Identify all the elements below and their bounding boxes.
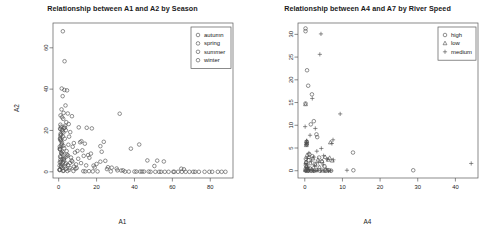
legend-label-summer: summer xyxy=(204,49,225,55)
point-triangle xyxy=(318,165,322,169)
point-circle xyxy=(82,154,86,158)
x-tick-label-1: 10 xyxy=(339,184,345,190)
y-tick-label-0: 0 xyxy=(288,169,294,172)
point-circle xyxy=(176,170,180,174)
point-circle xyxy=(220,170,224,174)
point-circle xyxy=(65,89,69,93)
y-tick-label-2: 10 xyxy=(288,122,294,128)
legend: highlowmedium xyxy=(438,27,476,60)
point-circle xyxy=(81,149,85,153)
point-circle xyxy=(74,163,78,167)
point-circle xyxy=(102,140,106,144)
point-circle xyxy=(127,170,131,174)
point-circle xyxy=(83,142,87,146)
point-circle xyxy=(64,120,68,124)
y-tick-label-3: 60 xyxy=(43,45,49,51)
point-circle xyxy=(63,59,67,63)
x-tick-label-1: 20 xyxy=(93,184,99,190)
point-circle xyxy=(77,126,81,130)
point-circle xyxy=(85,126,89,130)
point-circle xyxy=(306,84,310,88)
y-tick-label-3: 15 xyxy=(288,99,294,105)
point-circle xyxy=(118,112,122,116)
point-plus xyxy=(345,168,349,172)
point-circle xyxy=(129,147,133,151)
point-plus xyxy=(313,126,317,130)
point-circle xyxy=(96,170,100,174)
y-tick-label-4: 20 xyxy=(288,77,294,83)
panel-left-xaxis-label: A1 xyxy=(0,218,245,225)
y-tick-label-5: 25 xyxy=(288,54,294,60)
figure-root: Relationship between A1 and A2 by Season… xyxy=(0,0,490,231)
point-circle xyxy=(65,149,69,153)
series-spring xyxy=(58,108,195,174)
point-circle xyxy=(351,151,355,155)
point-circle xyxy=(312,119,316,123)
panel-left-plot: 0204060800204060autumnspringsummerwinter xyxy=(0,0,245,231)
legend-label-high: high xyxy=(451,32,462,38)
point-circle xyxy=(79,161,83,165)
point-circle xyxy=(99,144,103,148)
point-plus xyxy=(330,141,334,145)
point-plus xyxy=(310,96,314,100)
point-circle xyxy=(72,169,76,173)
point-circle xyxy=(224,170,228,174)
x-tick-label-2: 40 xyxy=(131,184,137,190)
point-circle xyxy=(91,170,95,174)
x-tick-label-3: 60 xyxy=(169,184,175,190)
point-circle xyxy=(61,94,65,98)
y-tick-label-1: 5 xyxy=(288,146,294,149)
point-circle xyxy=(95,162,99,166)
point-circle xyxy=(352,168,356,172)
point-circle xyxy=(203,170,207,174)
point-circle xyxy=(153,164,157,168)
point-circle xyxy=(76,157,80,161)
point-circle xyxy=(162,160,166,164)
point-plus xyxy=(322,154,326,158)
series-high xyxy=(304,27,415,173)
y-tick-label-0: 0 xyxy=(43,170,49,173)
legend-label-medium: medium xyxy=(451,49,472,55)
y-tick-label-2: 40 xyxy=(43,86,49,92)
x-tick-label-3: 30 xyxy=(415,184,421,190)
point-circle xyxy=(100,150,104,154)
legend-label-autumn: autumn xyxy=(204,32,224,38)
panel-right-plot: 010203040051015202530highlowmedium xyxy=(245,0,490,231)
point-plus xyxy=(318,52,322,56)
point-plus xyxy=(308,133,312,137)
point-circle xyxy=(63,137,67,141)
point-plus xyxy=(303,125,307,129)
point-plus xyxy=(315,149,319,153)
legend-label-low: low xyxy=(451,40,461,46)
point-plus xyxy=(331,138,335,142)
x-tick-label-4: 80 xyxy=(207,184,213,190)
point-circle xyxy=(137,143,141,147)
point-plus xyxy=(469,161,473,165)
x-tick-label-2: 20 xyxy=(377,184,383,190)
point-circle xyxy=(167,170,171,174)
legend-label-spring: spring xyxy=(204,40,220,46)
x-tick-label-0: 0 xyxy=(303,184,306,190)
panel-left-yaxis-label: A2 xyxy=(13,104,20,112)
scatter-panel-right: Relationship between A4 and A7 by River … xyxy=(245,0,490,231)
panel-right-xaxis-label: A4 xyxy=(245,218,490,225)
point-circle xyxy=(197,170,201,174)
point-circle xyxy=(155,159,159,163)
scatter-panel-left: Relationship between A1 and A2 by Season… xyxy=(0,0,245,231)
point-circle xyxy=(67,143,71,147)
point-circle xyxy=(60,108,64,112)
point-plus xyxy=(319,32,323,36)
point-circle xyxy=(71,145,75,149)
point-circle xyxy=(109,170,113,174)
point-plus xyxy=(312,155,316,159)
point-circle xyxy=(305,68,309,72)
point-circle xyxy=(163,170,167,174)
point-circle xyxy=(154,170,158,174)
point-plus xyxy=(319,146,323,150)
point-circle xyxy=(146,159,150,163)
point-circle xyxy=(84,164,88,168)
point-circle xyxy=(68,130,72,134)
point-circle xyxy=(103,159,107,163)
point-circle xyxy=(309,123,313,127)
legend: autumnspringsummerwinter xyxy=(191,27,231,69)
